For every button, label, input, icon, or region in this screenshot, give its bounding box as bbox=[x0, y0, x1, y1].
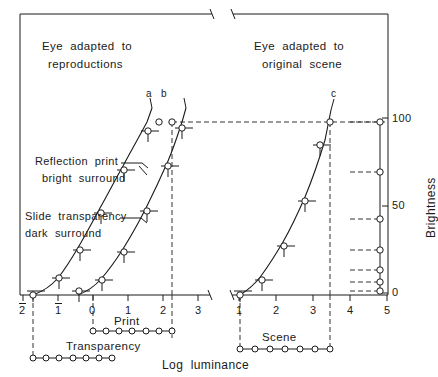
scalebar-transparency-pt-3 bbox=[56, 355, 62, 361]
brightness-marker-18 bbox=[377, 267, 383, 273]
curve-label-c: c bbox=[331, 88, 336, 99]
curve-label-b: b bbox=[161, 88, 167, 99]
right-tick-label-3: 3 bbox=[310, 304, 317, 316]
right-tick-label-5: 5 bbox=[384, 304, 391, 316]
point-c-2 bbox=[259, 277, 265, 283]
scalebar-transparency-pt-5 bbox=[83, 355, 89, 361]
scalebar-transparency-pt-1 bbox=[30, 355, 36, 361]
curve-c-original-scene bbox=[240, 110, 331, 295]
scalebar-print-pt-3 bbox=[116, 328, 122, 334]
scalebar-scene-pt-4 bbox=[282, 346, 288, 352]
right-tick-label-1: 1 bbox=[236, 304, 243, 316]
point-a-3 bbox=[77, 247, 83, 253]
scalebar-print-pt-4 bbox=[129, 328, 135, 334]
stem-a bbox=[150, 98, 152, 108]
scalebar-transparency-pt-6 bbox=[96, 355, 102, 361]
scalebar-transparency-pt-2 bbox=[43, 355, 49, 361]
point-b-5 bbox=[165, 163, 171, 169]
brightness-marker-10 bbox=[377, 279, 383, 285]
scalebar-scene-pt-5 bbox=[297, 346, 303, 352]
scalebar-label-scene: Scene bbox=[262, 331, 297, 343]
x-axis-title: Log luminance bbox=[162, 358, 249, 372]
scalebar-print-pt-5 bbox=[143, 328, 149, 334]
left-tick-label-3: 3 bbox=[195, 304, 202, 316]
left-tick-label-0: 0 bbox=[89, 304, 96, 316]
point-c-4 bbox=[302, 198, 308, 204]
brightness-label-100: 100 bbox=[392, 112, 412, 124]
brightness-marker-95 bbox=[377, 119, 383, 125]
point-c-3 bbox=[281, 243, 287, 249]
scalebar-label-print: Print bbox=[114, 315, 140, 327]
errorbars-curve-c bbox=[234, 145, 331, 302]
scalebar-transparency-pt-7 bbox=[109, 355, 115, 361]
left-panel-title-line2: reproductions bbox=[48, 58, 123, 70]
right-tick-label-2: 2 bbox=[273, 304, 280, 316]
brightness-marker-62 bbox=[377, 169, 383, 175]
point-b-4 bbox=[144, 208, 150, 214]
scalebar-print-pt-6 bbox=[156, 328, 162, 334]
brightness-label-0: 0 bbox=[392, 286, 399, 298]
scalebar-scene-pt-6 bbox=[312, 346, 318, 352]
leader-reflection-arrowstem bbox=[139, 166, 147, 175]
left-tick-label--2: 2 bbox=[19, 303, 26, 316]
right-panel-title-line1: Eye adapted to bbox=[254, 40, 344, 52]
brightness-axis-title: Brightness bbox=[424, 177, 438, 238]
scalebar-label-transparency: Transparency bbox=[66, 340, 141, 352]
annotation-reflection-print-line2: bright surround bbox=[42, 172, 125, 184]
point-a-2 bbox=[56, 275, 62, 281]
stem-c bbox=[331, 99, 334, 110]
scalebar-scene-pt-1 bbox=[237, 346, 243, 352]
point-c-1 bbox=[237, 292, 243, 298]
point-c-5 bbox=[317, 142, 323, 148]
left-panel-title-line1: Eye adapted to bbox=[42, 40, 132, 52]
annotation-slide-transparency-line2: dark surround bbox=[25, 227, 102, 239]
scalebar-scene-pt-2 bbox=[252, 346, 258, 352]
curve-a-slide-transparency bbox=[33, 108, 152, 295]
point-a-6 bbox=[145, 128, 151, 134]
left-tick-label-2: 2 bbox=[160, 304, 167, 316]
curve-label-a: a bbox=[146, 88, 152, 99]
point-c-6 bbox=[327, 119, 333, 125]
scalebar-transparency-pt-4 bbox=[70, 355, 76, 361]
left-tick-label--1: 1 bbox=[55, 303, 62, 316]
right-panel-title-line2: original scene bbox=[262, 58, 342, 70]
brightness-marker-30 bbox=[377, 247, 383, 253]
point-a-7 bbox=[156, 119, 162, 125]
point-b-2 bbox=[99, 277, 105, 283]
point-b-7 bbox=[169, 119, 175, 125]
brightness-marker-4 bbox=[377, 288, 383, 294]
stem-b bbox=[184, 98, 186, 108]
scalebar-print-pt-2 bbox=[103, 328, 109, 334]
scalebar-scene-pt-3 bbox=[267, 346, 273, 352]
annotation-slide-transparency-line1: Slide transparency bbox=[25, 210, 127, 222]
scalebar-scene-pt-7 bbox=[327, 346, 333, 352]
scalebar-print-pt-7 bbox=[169, 328, 175, 334]
annotation-reflection-print-line1: Reflection print bbox=[35, 155, 118, 167]
scalebar-print-pt-1 bbox=[90, 328, 96, 334]
point-b-3 bbox=[121, 249, 127, 255]
point-b-6 bbox=[179, 125, 185, 131]
brightness-label-50: 50 bbox=[392, 199, 405, 211]
point-b-1 bbox=[76, 288, 82, 294]
right-tick-label-4: 4 bbox=[347, 304, 354, 316]
curve-b-reflection-print bbox=[78, 108, 186, 295]
brightness-marker-42 bbox=[377, 216, 383, 222]
point-a-1 bbox=[30, 292, 36, 298]
